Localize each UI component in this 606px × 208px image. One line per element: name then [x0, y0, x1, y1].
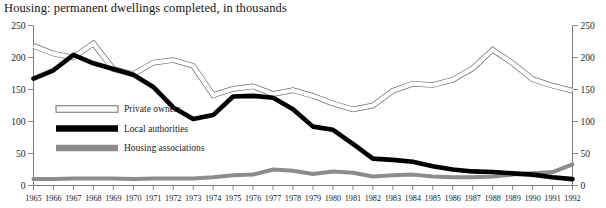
legend-item-housing-associations: Housing associations	[56, 143, 205, 153]
y-axis-left-tick-label: 150	[11, 85, 26, 95]
series-line-private-owners	[34, 43, 573, 109]
y-axis-left-tick-label: 100	[11, 117, 26, 127]
legend-item-local-authorities: Local authorities	[56, 124, 188, 134]
y-axis-left-tick-label: 50	[16, 149, 26, 159]
x-axis-tick-label: 1974	[205, 194, 221, 203]
y-axis-left: 050100150200250	[11, 21, 33, 191]
x-axis-tick-label: 1984	[405, 194, 421, 203]
x-axis-tick-label: 1975	[225, 194, 241, 203]
chart-container: Housing: permanent dwellings completed, …	[0, 0, 606, 208]
line-chart-plot: 050100150200250 050100150200250 19651966…	[0, 0, 606, 208]
y-axis-left-tick-label: 0	[21, 181, 26, 191]
y-axis-right-tick-label: 100	[581, 117, 596, 127]
x-axis-tick-label: 1985	[425, 194, 441, 203]
legend-item-private-owners: Private owners	[56, 104, 181, 114]
legend-swatch-housing-associations	[56, 145, 118, 152]
x-axis-tick-label: 1987	[464, 194, 480, 203]
x-axis-tick-label: 1991	[544, 194, 560, 203]
x-axis-tick-label: 1986	[445, 194, 461, 203]
series-line-local-authorities	[34, 55, 573, 179]
legend-label-housing-associations: Housing associations	[124, 143, 205, 153]
y-axis-left-tick-label: 200	[11, 53, 26, 63]
x-axis: 1965196619671968196919701971197219731974…	[25, 186, 580, 203]
x-axis-tick-label: 1973	[185, 194, 201, 203]
y-axis-right-tick-label: 50	[581, 149, 591, 159]
legend-swatch-local-authorities	[56, 125, 118, 132]
y-axis-right-tick-label: 250	[581, 21, 596, 31]
x-axis-tick-label: 1977	[265, 194, 281, 203]
y-axis-left-tick-label: 250	[11, 21, 26, 31]
x-axis-tick-label: 1981	[345, 194, 361, 203]
y-axis-right: 050100150200250	[573, 21, 596, 191]
x-axis-tick-label: 1966	[45, 194, 61, 203]
y-axis-right-tick-label: 0	[581, 181, 586, 191]
x-axis-tick-label: 1969	[105, 194, 121, 203]
y-axis-right-tick-label: 150	[581, 85, 596, 95]
x-axis-tick-label: 1989	[504, 194, 520, 203]
x-axis-tick-label: 1967	[65, 194, 81, 203]
x-axis-tick-label: 1983	[385, 194, 401, 203]
x-axis-tick-label: 1992	[564, 194, 580, 203]
x-axis-tick-label: 1971	[145, 194, 161, 203]
x-axis-tick-label: 1990	[524, 194, 540, 203]
legend-label-private-owners: Private owners	[124, 104, 181, 114]
x-axis-tick-label: 1980	[325, 194, 341, 203]
legend-label-local-authorities: Local authorities	[124, 124, 188, 134]
x-axis-tick-label: 1979	[305, 194, 321, 203]
x-axis-tick-label: 1978	[285, 194, 301, 203]
x-axis-tick-label: 1965	[25, 194, 41, 203]
x-axis-tick-label: 1976	[245, 194, 261, 203]
legend-swatch-private-owners	[56, 106, 118, 113]
x-axis-tick-label: 1968	[85, 194, 101, 203]
y-axis-right-tick-label: 200	[581, 53, 596, 63]
x-axis-tick-label: 1970	[125, 194, 141, 203]
x-axis-tick-label: 1982	[365, 194, 381, 203]
x-axis-tick-label: 1988	[484, 194, 500, 203]
x-axis-tick-label: 1972	[165, 194, 181, 203]
